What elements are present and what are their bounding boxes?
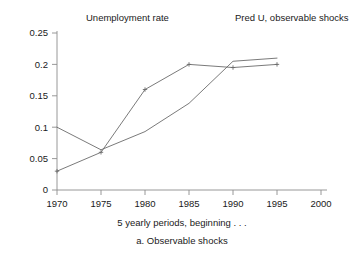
y-tick-label-0: 0 [43, 184, 48, 195]
legend-label-pred-u: Pred U, observable shocks [235, 12, 349, 23]
y-tick-label-3: 0.15 [30, 90, 49, 101]
legend-label-unemployment-rate: Unemployment rate [86, 12, 169, 23]
x-tick-label-1985: 1985 [178, 198, 199, 209]
x-axis-ticks [57, 190, 321, 195]
data-point-marker [187, 62, 191, 66]
x-axis-tick-labels: 1970 1975 1980 1985 1990 1995 2000 [46, 198, 331, 209]
chart-legend: Unemployment rate Pred U, observable sho… [46, 12, 349, 23]
y-axis-ticks [52, 33, 57, 190]
x-axis-title: 5 yearly periods, beginning . . . [117, 217, 246, 228]
chart-figure: Unemployment rate Pred U, observable sho… [0, 0, 364, 255]
chart-caption: a. Observable shocks [136, 235, 228, 246]
x-tick-label-1970: 1970 [46, 198, 67, 209]
legend-marker-icon [58, 15, 63, 20]
x-tick-label-2000: 2000 [310, 198, 331, 209]
data-series-layer [55, 58, 279, 173]
x-tick-label-1975: 1975 [90, 198, 111, 209]
plot-axes: 0 0.05 0.1 0.15 0.2 0.25 1970 1975 [30, 27, 332, 209]
series-pred-u [57, 58, 277, 150]
y-tick-label-4: 0.2 [35, 59, 48, 70]
data-point-marker [55, 169, 59, 173]
y-tick-label-1: 0.05 [30, 153, 49, 164]
data-point-marker [231, 65, 235, 69]
x-tick-label-1980: 1980 [134, 198, 155, 209]
y-tick-label-5: 0.25 [30, 27, 49, 38]
legend-item-unemployment-rate[interactable]: Unemployment rate [46, 12, 169, 23]
x-tick-label-1990: 1990 [222, 198, 243, 209]
line-chart-canvas: Unemployment rate Pred U, observable sho… [0, 0, 364, 255]
y-axis-tick-labels: 0 0.05 0.1 0.15 0.2 0.25 [30, 27, 49, 195]
legend-item-pred-u[interactable]: Pred U, observable shocks [195, 12, 349, 23]
data-point-marker [275, 62, 279, 66]
series-line [57, 58, 277, 150]
x-tick-label-1995: 1995 [266, 198, 287, 209]
y-tick-label-2: 0.1 [35, 122, 48, 133]
